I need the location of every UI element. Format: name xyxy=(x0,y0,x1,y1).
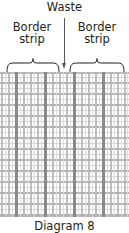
grid-vertical-line xyxy=(66,72,68,217)
grid-vertical-line xyxy=(27,72,28,217)
grid-vertical-line xyxy=(63,72,64,217)
grid-vertical-line xyxy=(12,72,13,217)
grid-vertical-line xyxy=(23,72,25,217)
grid-vertical-line xyxy=(110,72,112,217)
grid-vertical-line xyxy=(59,72,61,217)
waste-pointer-stem xyxy=(64,18,65,65)
grid-vertical-line xyxy=(44,72,47,217)
grid-vertical-line xyxy=(56,72,57,217)
border-strip-label-right-line2: strip xyxy=(68,33,126,45)
strip-grid xyxy=(0,72,129,217)
brace-left-icon xyxy=(6,58,60,72)
figure-caption: Diagram 8 xyxy=(0,219,129,233)
grid-vertical-line xyxy=(8,72,10,217)
grid-vertical-line xyxy=(5,72,6,217)
waste-label: Waste xyxy=(0,2,129,13)
grid-vertical-line xyxy=(95,72,97,217)
grid-vertical-line xyxy=(117,72,119,217)
grid-vertical-line xyxy=(81,72,83,217)
grid-vertical-line xyxy=(127,72,128,217)
grid-vertical-line xyxy=(34,72,35,217)
grid-vertical-line xyxy=(49,72,50,217)
grid-vertical-line xyxy=(99,72,100,217)
border-strip-label-left: Border strip xyxy=(3,21,61,45)
grid-vertical-line xyxy=(85,72,86,217)
waste-pointer-arrow xyxy=(64,18,65,70)
grid-vertical-line xyxy=(41,72,42,217)
grid-vertical-line xyxy=(52,72,54,217)
waste-pointer-arrowhead xyxy=(62,63,66,69)
grid-vertical-line xyxy=(121,72,122,217)
grid-vertical-line xyxy=(15,72,18,217)
grid-vertical-line xyxy=(78,72,79,217)
grid-vertical-line xyxy=(102,72,105,217)
grid-vertical-line xyxy=(1,72,3,217)
brace-right-icon xyxy=(69,58,125,72)
diagram-figure: Waste Border strip Border strip Diagram … xyxy=(0,0,129,233)
grid-vertical-line xyxy=(92,72,93,217)
grid-vertical-line xyxy=(107,72,108,217)
grid-vertical-line xyxy=(114,72,115,217)
grid-vertical-line xyxy=(70,72,71,217)
border-strip-label-left-line2: strip xyxy=(3,33,61,45)
grid-vertical-line xyxy=(88,72,90,217)
grid-vertical-line xyxy=(20,72,21,217)
grid-vertical-line xyxy=(37,72,39,217)
grid-vertical-line xyxy=(73,72,76,217)
border-strip-label-right: Border strip xyxy=(68,21,126,45)
grid-vertical-line xyxy=(30,72,32,217)
grid-vertical-line xyxy=(124,72,126,217)
